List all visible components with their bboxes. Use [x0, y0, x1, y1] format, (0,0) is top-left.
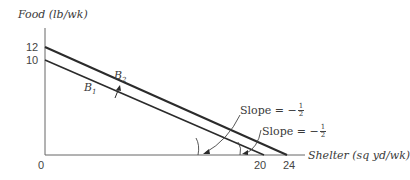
series-label-b1: B1	[84, 82, 97, 96]
slope-annotation-2: Slope = −12	[262, 124, 326, 139]
y-tick-10: 10	[26, 55, 38, 66]
x-tick-0: 0	[38, 160, 44, 171]
y-tick-12: 12	[26, 42, 38, 53]
budget-line-b1	[45, 60, 264, 155]
y-axis-label: Food (lb/wk)	[18, 9, 88, 20]
budget-line-b2	[45, 47, 287, 155]
series-label-b2: B2	[114, 70, 127, 84]
x-tick-20: 20	[254, 160, 266, 171]
x-tick-24: 24	[283, 160, 295, 171]
x-axis-label: Shelter (sq yd/wk)	[308, 150, 410, 161]
slope-annotation-1: Slope = −12	[240, 103, 304, 118]
